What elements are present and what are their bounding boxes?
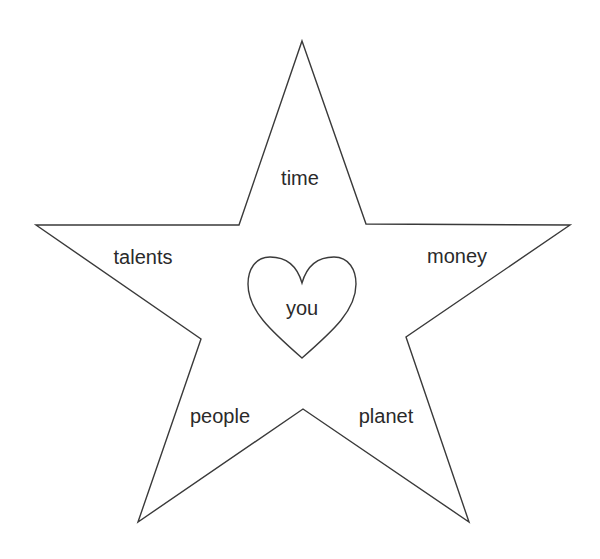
star-diagram: time talents money you people planet: [0, 0, 600, 559]
label-money: money: [427, 245, 487, 267]
label-planet: planet: [359, 405, 414, 427]
label-you: you: [286, 297, 318, 319]
label-people: people: [190, 405, 250, 427]
label-time: time: [281, 167, 319, 189]
label-talents: talents: [114, 246, 173, 268]
